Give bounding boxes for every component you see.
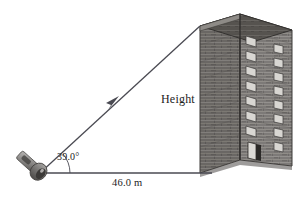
horizontal-distance-label: 46.0 m (112, 177, 142, 188)
building (200, 14, 292, 177)
window (274, 72, 283, 82)
window (274, 44, 283, 54)
window (274, 142, 283, 152)
window (274, 86, 283, 96)
door-shadow (256, 144, 261, 161)
window (274, 100, 283, 110)
building-height-label: Height (161, 92, 195, 107)
window (274, 114, 283, 124)
flashlight (13, 148, 50, 184)
trig-figure: 39.0° 46.0 m Height (0, 0, 303, 206)
entrance-door (248, 142, 256, 160)
building-left-facade (200, 14, 240, 173)
window (274, 58, 283, 68)
window (274, 128, 283, 138)
angle-of-elevation-label: 39.0° (57, 151, 80, 162)
figure-canvas (0, 0, 303, 206)
